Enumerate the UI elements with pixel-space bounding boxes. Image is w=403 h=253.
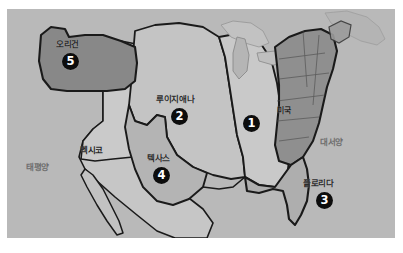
map-marker-2-number: 2	[175, 110, 183, 122]
map-figure: 태평양 대서양 멕시코 미국 오리건 루이지애나 텍사스 플로리다 1 2 3 …	[0, 0, 403, 253]
map-marker-5-number: 5	[66, 55, 74, 67]
region-label-florida: 플로리다	[303, 179, 334, 188]
region-label-oregon: 오리건	[56, 40, 79, 49]
map-marker-4[interactable]: 4	[153, 167, 170, 184]
region-label-louisiana: 루이지애나	[156, 95, 195, 104]
country-label-mexico: 멕시코	[80, 146, 103, 155]
map-marker-2[interactable]: 2	[171, 108, 188, 125]
ocean-label-pacific: 태평양	[26, 163, 49, 172]
ocean-label-atlantic: 대서양	[320, 138, 343, 147]
map-image-plate: 태평양 대서양 멕시코 미국 오리건 루이지애나 텍사스 플로리다 1 2 3 …	[7, 9, 395, 238]
region-label-texas: 텍사스	[147, 154, 170, 163]
map-marker-4-number: 4	[157, 169, 165, 181]
map-marker-3-number: 3	[320, 194, 328, 206]
map-marker-1-number: 1	[247, 117, 255, 129]
map-marker-1[interactable]: 1	[243, 115, 260, 132]
country-label-usa: 미국	[277, 107, 290, 115]
map-marker-3[interactable]: 3	[316, 192, 333, 209]
map-marker-5[interactable]: 5	[62, 53, 79, 70]
